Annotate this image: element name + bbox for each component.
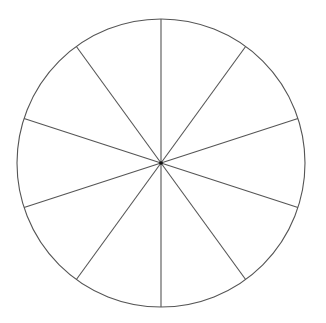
radial-divider-line (161, 119, 298, 164)
radial-divider-line (76, 163, 161, 280)
radial-divider-line (161, 47, 246, 164)
radial-divider-line (161, 163, 298, 208)
radial-divider-line (161, 163, 246, 280)
radial-divider-line (24, 163, 161, 208)
radial-divider-line (24, 119, 161, 164)
segmented-circle-diagram (0, 0, 326, 323)
radial-divider-line (76, 47, 161, 164)
center-point (159, 161, 163, 165)
